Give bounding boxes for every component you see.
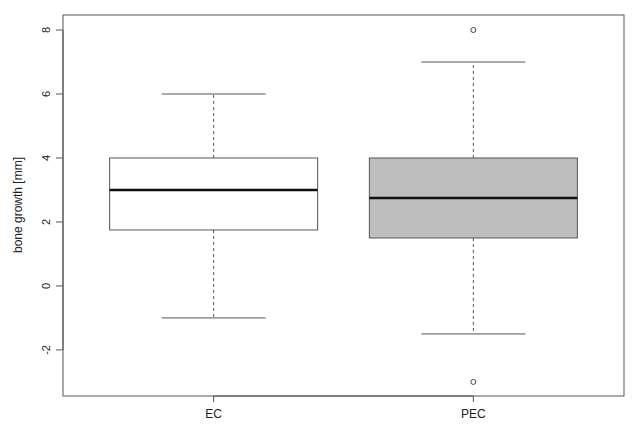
y-axis-label: bone growth [mm] (11, 157, 25, 253)
box-pec (369, 28, 577, 385)
y-tick-label: 6 (40, 91, 52, 97)
outlier-point (471, 28, 476, 33)
y-tick-label: 2 (40, 219, 52, 225)
boxplot-chart: -202468 ECPEC bone growth [mm] (0, 0, 636, 429)
y-tick-label: 8 (40, 27, 52, 33)
boxes (110, 28, 578, 385)
outlier-point (471, 379, 476, 384)
box-ec (110, 94, 318, 318)
x-tick-label: PEC (461, 407, 486, 421)
x-tick-label: EC (205, 407, 222, 421)
y-tick-label: 4 (40, 155, 52, 161)
y-axis: -202468 (40, 27, 63, 355)
x-axis: ECPEC (205, 396, 486, 421)
y-tick-label: 0 (40, 283, 52, 289)
y-tick-label: -2 (40, 345, 52, 355)
iqr-box (110, 158, 318, 230)
